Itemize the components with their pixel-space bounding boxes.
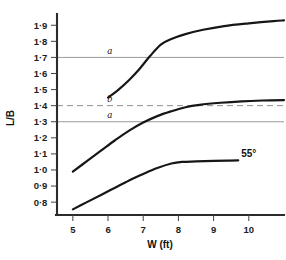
y-axis-tick-label: 1·1 [34,148,48,159]
reference-line-label-a: a [107,109,112,120]
line-chart: aba 0·80·91·01·11·21·31·41·51·61·71·81·9… [0,0,286,260]
y-axis-tick-label: 1·9 [34,20,47,31]
series-labels-group: 35°45°55° [241,8,286,159]
y-axis-tick-label: 1·8 [34,36,47,47]
y-axis-tick-label: 1·0 [34,164,47,175]
x-axis-tick-label: 5 [70,224,76,235]
curve-35° [108,20,284,97]
y-axis-tick-label: 1·3 [34,116,47,127]
y-axis-tick-label: 1·4 [34,100,48,111]
y-axis-tick-label: 1·7 [34,52,47,63]
y-axis-tick-label: 0·8 [34,197,47,208]
x-axis-tick-label: 7 [141,224,146,235]
y-axis-tick-label: 1·5 [34,84,48,95]
y-axis-tick-label: 1·6 [34,68,47,79]
y-axis-ticks-group: 0·80·91·01·11·21·31·41·51·61·71·81·9 [34,20,57,208]
y-axis-tick-label: 1·2 [34,132,47,143]
x-axis-tick-label: 8 [176,224,181,235]
curve-45° [73,100,284,172]
x-axis-ticks-group: 5678910 [70,215,254,235]
data-curves-group [73,20,284,209]
curve-55° [73,160,238,209]
series-label-55°: 55° [241,148,256,159]
reference-line-label-a: a [107,45,112,56]
y-axis-tick-label: 0·9 [34,180,47,191]
x-axis-title: W (ft) [147,239,173,250]
x-axis-tick-label: 10 [244,224,255,235]
y-axis-title: L/B [5,110,16,126]
chart-container: aba 0·80·91·01·11·21·31·41·51·61·71·81·9… [0,0,286,260]
x-axis-tick-label: 9 [211,224,216,235]
x-axis-tick-label: 6 [105,224,110,235]
reference-lines-group: aba [57,45,284,122]
